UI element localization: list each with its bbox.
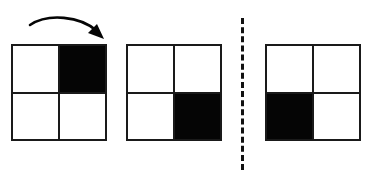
grid-third-cell-bottom-left (267, 94, 312, 140)
grid-second (126, 44, 222, 141)
grid-second-cell-top-left (128, 46, 173, 92)
grid-second-cell-bottom-left (128, 94, 173, 140)
grid-third-cell-top-right (314, 46, 359, 92)
grid-second-cell-top-right (175, 46, 220, 92)
grid-first (11, 44, 107, 141)
dashed-divider (241, 18, 244, 170)
grid-first-cell-bottom-right (60, 94, 105, 140)
grid-first-cell-top-left (13, 46, 58, 92)
grid-first-cell-bottom-left (13, 94, 58, 140)
rotation-arrow-head (88, 24, 104, 39)
grid-second-cell-bottom-right (175, 94, 220, 140)
rotation-arrow-curve (30, 18, 97, 31)
grid-third (265, 44, 361, 141)
diagram-canvas (0, 0, 381, 182)
grid-third-cell-bottom-right (314, 94, 359, 140)
grid-third-cell-top-left (267, 46, 312, 92)
grid-first-cell-top-right (60, 46, 105, 92)
